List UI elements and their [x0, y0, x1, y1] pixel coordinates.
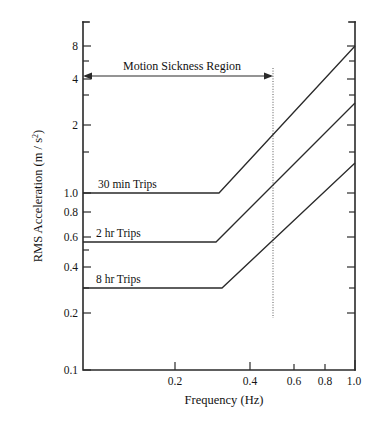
y-axis-title-main: RMS Acceleration (m / s — [31, 138, 45, 262]
y-axis-title-group: RMS Acceleration (m / s2) — [31, 130, 45, 262]
curve-label-8-hr-trips: 8 hr Trips — [96, 273, 141, 286]
x-axis-title: Frequency (Hz) — [185, 393, 264, 407]
y-axis-title: RMS Acceleration (m / s2) — [31, 130, 45, 262]
motion-sickness-chart-svg: 8 4 2 1.0 0.8 0.6 0.4 0.2 0.1 0.2 0.4 0.… — [0, 0, 381, 423]
y-tick-label-1p0: 1.0 — [64, 187, 79, 199]
y-axis-right-ticks — [347, 46, 355, 313]
y-tick-label-0p6: 0.6 — [64, 231, 79, 243]
y-axis-ticks — [83, 46, 91, 370]
y-tick-label-0p8: 0.8 — [64, 206, 79, 218]
x-tick-label-0p8: 0.8 — [318, 375, 333, 387]
curve-label-2-hr-trips: 2 hr Trips — [96, 227, 141, 240]
x-tick-label-0p6: 0.6 — [287, 375, 302, 387]
curve-label-30-min-trips: 30 min Trips — [98, 178, 157, 191]
chart-figure: 8 4 2 1.0 0.8 0.6 0.4 0.2 0.1 0.2 0.4 0.… — [0, 0, 381, 423]
region-label-text: Motion Sickness Region — [123, 59, 241, 73]
y-tick-label-2: 2 — [72, 119, 78, 131]
axis-left-bottom — [83, 22, 355, 370]
y-tick-label-0p2: 0.2 — [64, 307, 79, 319]
plot-frame — [83, 22, 355, 370]
x-tick-label-0p4: 0.4 — [243, 375, 258, 387]
x-tick-label-0p2: 0.2 — [168, 375, 183, 387]
y-axis-title-close: ) — [31, 130, 45, 134]
y-tick-label-0p4: 0.4 — [64, 261, 79, 273]
x-tick-labels: 0.2 0.4 0.6 0.8 1.0 — [168, 375, 362, 387]
y-tick-labels: 8 4 2 1.0 0.8 0.6 0.4 0.2 0.1 — [64, 40, 79, 376]
y-tick-label-4: 4 — [72, 73, 78, 85]
x-axis-ticks — [175, 360, 355, 370]
curve-2-hr-trips — [83, 103, 355, 242]
y-tick-label-0p1: 0.1 — [64, 364, 79, 376]
series-curves — [83, 46, 355, 288]
y-tick-label-8: 8 — [72, 40, 78, 52]
region-arrow-head-right — [264, 73, 273, 80]
series-labels: 30 min Trips 2 hr Trips 8 hr Trips — [96, 178, 157, 286]
region-arrow-head-left — [83, 73, 92, 80]
motion-sickness-region-annotation: Motion Sickness Region — [83, 59, 273, 79]
x-tick-label-1p0: 1.0 — [347, 375, 362, 387]
